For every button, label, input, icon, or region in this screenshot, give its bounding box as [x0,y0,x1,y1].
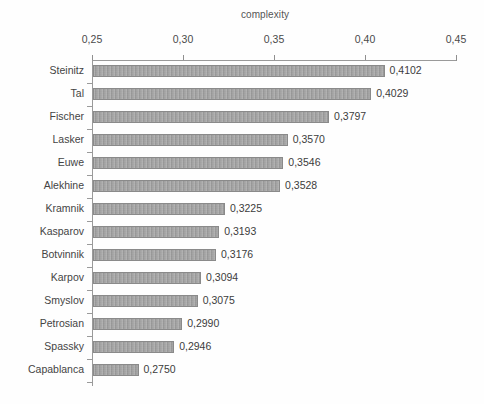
bar[interactable] [93,249,216,261]
x-axis-tick-label: 0,40 [342,33,388,45]
bar[interactable] [93,180,280,192]
category-label: Euwe [0,156,84,168]
bar[interactable] [93,88,371,100]
y-axis-tick [87,83,92,84]
y-axis-tick [87,359,92,360]
bar[interactable] [93,111,329,123]
bar[interactable] [93,272,201,284]
y-axis-tick [87,313,92,314]
bar[interactable] [93,364,139,376]
y-axis-tick [87,336,92,337]
y-axis-tick [87,290,92,291]
y-axis-tick [87,267,92,268]
bar-row[interactable]: Kramnik0,3225 [0,198,484,221]
bar-value-label: 0,3797 [334,110,366,122]
bar[interactable] [93,226,219,238]
bar-value-label: 0,2946 [179,340,211,352]
bar-row[interactable]: Alekhine0,3528 [0,175,484,198]
bar[interactable] [93,157,283,169]
bar-value-label: 0,2990 [187,317,219,329]
bar-row[interactable]: Smyslov0,3075 [0,290,484,313]
bar-row[interactable]: Tal0,4029 [0,83,484,106]
category-label: Kasparov [0,225,84,237]
bar-row[interactable]: Capablanca0,2750 [0,359,484,382]
complexity-bar-chart: complexity 0,250,300,350,400,45 Steinitz… [0,0,484,404]
bar-row[interactable]: Euwe0,3546 [0,152,484,175]
bar[interactable] [93,341,174,353]
chart-title: complexity [0,9,484,20]
y-axis-tick [87,221,92,222]
y-axis-tick [87,106,92,107]
y-axis-tick [87,152,92,153]
category-label: Spassky [0,340,84,352]
y-axis-tick [87,129,92,130]
bar-row[interactable]: Lasker0,3570 [0,129,484,152]
bar-row[interactable]: Karpov0,3094 [0,267,484,290]
bar-row[interactable]: Spassky0,2946 [0,336,484,359]
bar-value-label: 0,4029 [376,87,408,99]
bar-row[interactable]: Botvinnik0,3176 [0,244,484,267]
bar-value-label: 0,3193 [224,225,256,237]
x-axis-tick-label: 0,45 [433,33,479,45]
bar[interactable] [93,318,182,330]
bar-value-label: 0,3225 [230,202,262,214]
y-axis-tick [87,175,92,176]
bar-value-label: 0,3176 [221,248,253,260]
category-label: Smyslov [0,294,84,306]
category-label: Capablanca [0,363,84,375]
bar-row[interactable]: Fischer0,3797 [0,106,484,129]
bar-value-label: 0,3094 [206,271,238,283]
category-label: Lasker [0,133,84,145]
x-axis-tick-labels: 0,250,300,350,400,45 [0,33,484,49]
bar-value-label: 0,3546 [288,156,320,168]
y-axis-tick [87,198,92,199]
x-axis-tick-label: 0,35 [251,33,297,45]
bar-row[interactable]: Kasparov0,3193 [0,221,484,244]
bar[interactable] [93,203,225,215]
x-axis-tick-label: 0,25 [69,33,115,45]
bar-value-label: 0,3570 [293,133,325,145]
category-label: Fischer [0,110,84,122]
bar[interactable] [93,134,288,146]
bar-value-label: 0,4102 [390,64,422,76]
category-label: Petrosian [0,317,84,329]
category-label: Steinitz [0,64,84,76]
y-axis-tick [87,244,92,245]
bar-rows: Steinitz0,4102Tal0,4029Fischer0,3797Lask… [0,60,484,390]
category-label: Kramnik [0,202,84,214]
y-axis-tick [87,382,92,383]
category-label: Karpov [0,271,84,283]
category-label: Alekhine [0,179,84,191]
bar-row[interactable]: Petrosian0,2990 [0,313,484,336]
bar-value-label: 0,3528 [285,179,317,191]
category-label: Tal [0,87,84,99]
bar[interactable] [93,65,385,77]
category-label: Botvinnik [0,248,84,260]
bar-value-label: 0,3075 [203,294,235,306]
x-axis-tick-label: 0,30 [160,33,206,45]
bar[interactable] [93,295,198,307]
bar-row[interactable]: Steinitz0,4102 [0,60,484,83]
bar-value-label: 0,2750 [144,363,176,375]
